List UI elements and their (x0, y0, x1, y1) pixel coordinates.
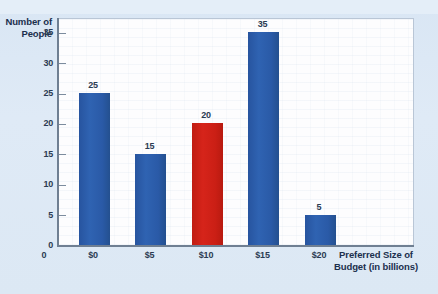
y-axis-tick-label: 25 (27, 88, 53, 98)
x-axis-tick-label: $10 (183, 250, 229, 260)
x-axis-line (57, 245, 414, 247)
plot-area (57, 18, 414, 246)
y-axis-tick-label: 35 (27, 27, 53, 37)
bar-value-label: 5 (299, 202, 339, 212)
y-axis-tick-label: 30 (27, 58, 53, 68)
x-axis-tick-label: $5 (127, 250, 173, 260)
bar (248, 32, 279, 245)
bar-value-label: 15 (130, 141, 170, 151)
x-axis-origin-label: 0 (34, 250, 54, 260)
y-axis-tick (59, 33, 66, 34)
y-axis-line (57, 18, 59, 247)
bar-chart-figure: Number of People 05101520253035 25152035… (0, 0, 438, 294)
bar-value-label: 25 (73, 80, 113, 90)
bar-value-label: 35 (243, 19, 283, 29)
y-axis-tick (59, 185, 66, 186)
y-axis-tick (59, 63, 66, 64)
y-axis-tick-label: 15 (27, 149, 53, 159)
y-axis-tick-label: 5 (27, 210, 53, 220)
x-axis-title: Preferred Size of Budget (in billions) (316, 249, 436, 272)
bar-value-label: 20 (186, 110, 226, 120)
x-axis-tick-label: $15 (240, 250, 286, 260)
y-axis-title-line-1: Number of (2, 16, 52, 28)
x-axis-title-line-1: Preferred Size of (316, 249, 436, 261)
y-axis-tick-label: 10 (27, 179, 53, 189)
x-axis-title-line-2: Budget (in billions) (316, 261, 436, 273)
y-axis-tick (59, 94, 66, 95)
bar (79, 93, 110, 245)
x-axis-tick-label: $0 (70, 250, 116, 260)
bar (192, 123, 223, 245)
y-axis-tick-label: 0 (27, 240, 53, 250)
y-axis-tick (59, 124, 66, 125)
y-axis-tick-label: 20 (27, 118, 53, 128)
bar (305, 215, 336, 245)
plot-paper-texture (58, 19, 413, 245)
y-axis-tick (59, 215, 66, 216)
y-axis-tick (59, 154, 66, 155)
bar (135, 154, 166, 245)
